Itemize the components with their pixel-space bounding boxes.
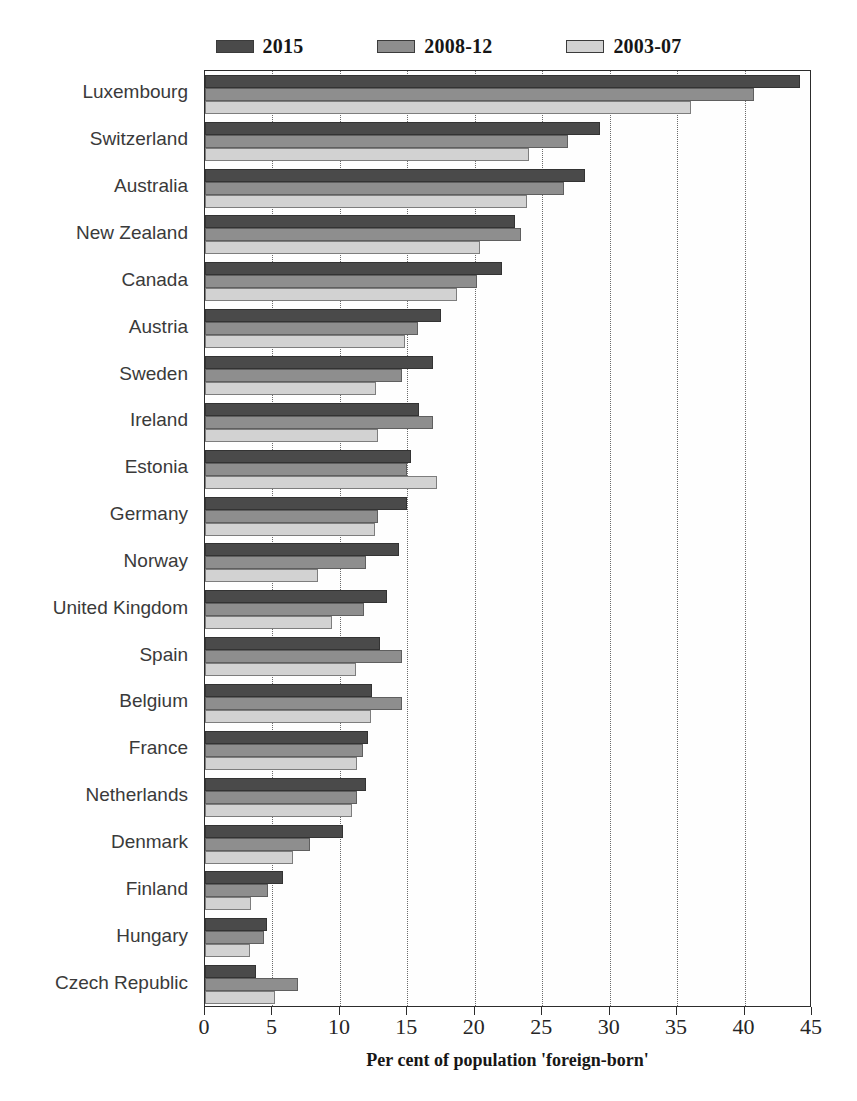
bars-layer [205,71,810,1006]
y-axis-label: France [129,737,188,759]
bar[interactable] [205,463,407,476]
bar[interactable] [205,369,402,382]
bar[interactable] [205,510,378,523]
bar[interactable] [205,101,691,114]
y-axis-label: Canada [121,269,188,291]
bar[interactable] [205,697,402,710]
bar[interactable] [205,991,275,1004]
bar[interactable] [205,322,418,335]
bar[interactable] [205,778,366,791]
bar[interactable] [205,215,515,228]
bar[interactable] [205,838,310,851]
y-axis-label: Sweden [119,363,188,385]
bar[interactable] [205,871,283,884]
bar[interactable] [205,616,332,629]
y-axis-category-labels: LuxembourgSwitzerlandAustraliaNew Zealan… [0,70,196,1007]
bar[interactable] [205,476,437,489]
bar[interactable] [205,825,343,838]
bar-group [205,493,810,540]
bar[interactable] [205,403,419,416]
bar[interactable] [205,603,364,616]
bar[interactable] [205,356,433,369]
bar[interactable] [205,804,352,817]
bar[interactable] [205,543,399,556]
x-tick-label: 40 [733,1014,755,1040]
bar[interactable] [205,275,477,288]
y-axis-label: Ireland [130,409,188,431]
y-axis-label: Czech Republic [55,972,188,994]
bar[interactable] [205,288,457,301]
bar-group [205,867,810,914]
bar[interactable] [205,884,268,897]
bar[interactable] [205,731,368,744]
bar[interactable] [205,523,375,536]
legend-item-2015[interactable]: 2015 [216,35,304,58]
bar[interactable] [205,416,433,429]
legend-swatch-icon [377,40,415,53]
bar[interactable] [205,195,527,208]
bar[interactable] [205,650,402,663]
legend-swatch-icon [566,40,604,53]
x-tick-label: 20 [463,1014,485,1040]
y-axis-label: Netherlands [86,784,188,806]
y-axis-label: Austria [129,316,188,338]
x-tick-label: 30 [598,1014,620,1040]
bar[interactable] [205,450,411,463]
bar[interactable] [205,556,366,569]
bar[interactable] [205,965,256,978]
bar[interactable] [205,182,564,195]
bar[interactable] [205,335,405,348]
bar[interactable] [205,241,480,254]
bar-group [205,118,810,165]
bar-group [205,71,810,118]
bar[interactable] [205,851,293,864]
bar[interactable] [205,309,441,322]
bar[interactable] [205,791,357,804]
y-axis-label: Norway [124,550,188,572]
bar[interactable] [205,135,568,148]
x-tick-label: 25 [530,1014,552,1040]
bar[interactable] [205,897,251,910]
bar[interactable] [205,684,372,697]
bar-group [205,680,810,727]
bar[interactable] [205,169,585,182]
bar[interactable] [205,978,298,991]
bar[interactable] [205,637,380,650]
y-axis-label: United Kingdom [53,597,188,619]
bar[interactable] [205,75,800,88]
bar[interactable] [205,382,376,395]
legend-swatch-icon [216,40,254,53]
bar[interactable] [205,228,521,241]
bar[interactable] [205,744,363,757]
y-axis-label: Luxembourg [82,81,188,103]
bar-group [205,821,810,868]
bar[interactable] [205,944,250,957]
bar[interactable] [205,262,502,275]
legend-item-2008-12[interactable]: 2008-12 [377,35,492,58]
legend-label: 2003-07 [613,35,681,58]
y-axis-label: Estonia [125,456,188,478]
bar-group [205,914,810,961]
bar-group [205,727,810,774]
bar-group [205,399,810,446]
bar[interactable] [205,497,407,510]
bar[interactable] [205,148,529,161]
bar[interactable] [205,88,754,101]
bar[interactable] [205,569,318,582]
x-tick-label: 15 [395,1014,417,1040]
y-axis-label: Australia [114,175,188,197]
bar[interactable] [205,757,357,770]
y-axis-label: Spain [139,644,188,666]
bar[interactable] [205,710,371,723]
x-tick-label: 0 [199,1014,210,1040]
plot-area [204,70,811,1007]
bar[interactable] [205,429,378,442]
bar[interactable] [205,590,387,603]
bar[interactable] [205,663,356,676]
bar[interactable] [205,918,267,931]
y-axis-label: Switzerland [90,128,188,150]
legend-item-2003-07[interactable]: 2003-07 [566,35,681,58]
bar-group [205,774,810,821]
bar[interactable] [205,122,600,135]
bar[interactable] [205,931,264,944]
